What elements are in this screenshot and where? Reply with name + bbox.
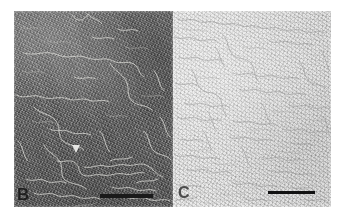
panel-c-grain-primary — [173, 11, 331, 207]
panel-b-scale-bar — [100, 194, 153, 198]
panel-c-filaments — [173, 11, 331, 207]
panel-b: B — [14, 11, 173, 207]
panel-b-brightness-modulation — [14, 11, 173, 207]
panel-b-filaments — [14, 11, 173, 207]
panel-c-label: C — [178, 185, 190, 201]
panel-c-scale-bar — [268, 191, 315, 194]
arrowhead-marker — [72, 145, 80, 153]
micrograph-figure: B — [0, 0, 337, 216]
panel-c-edge — [173, 11, 331, 207]
panel-c: C — [173, 11, 331, 207]
panel-c-brightness-modulation — [173, 11, 331, 207]
panel-b-grain-primary — [14, 11, 173, 207]
panel-c-grain-secondary — [173, 11, 331, 207]
panel-row: B — [14, 11, 331, 207]
panel-b-label: B — [17, 186, 29, 203]
panel-b-grain-secondary — [14, 11, 173, 207]
panel-b-edge — [14, 11, 173, 207]
